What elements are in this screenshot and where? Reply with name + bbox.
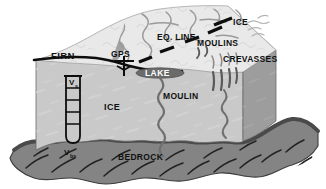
- diagram-canvas: FIRN GPS EQ. LINE MOULINS ICE CREVASSES …: [0, 0, 326, 189]
- crevasse-1: [213, 72, 214, 90]
- glacier-block-diagram: FIRN GPS EQ. LINE MOULINS ICE CREVASSES …: [0, 0, 326, 189]
- label-moulins: MOULINS: [197, 38, 238, 48]
- label-bedrock: BEDROCK: [118, 152, 164, 162]
- label-moulin: MOULIN: [163, 91, 198, 101]
- label-lake: LAKE: [145, 68, 170, 78]
- crevasse-2: [221, 70, 222, 90]
- crevasse-4: [236, 68, 237, 83]
- label-ice-top: ICE: [233, 17, 248, 27]
- label-crevasses: CREVASSES: [223, 54, 278, 64]
- label-gps: GPS: [111, 49, 130, 59]
- label-v-basal-sub: bs: [70, 153, 76, 159]
- label-firn: FIRN: [51, 50, 75, 61]
- label-ice-body: ICE: [104, 102, 120, 112]
- label-eq-line: EQ. LINE: [157, 32, 196, 42]
- crevasse-3: [229, 69, 230, 87]
- label-v-surface-sub: s: [75, 83, 78, 89]
